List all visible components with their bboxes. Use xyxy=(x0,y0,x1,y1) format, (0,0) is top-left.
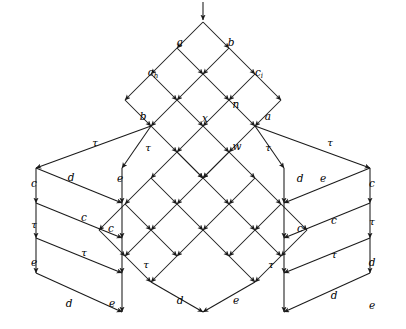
top-lattice-edge xyxy=(229,74,255,100)
edge-label-tau-near-left: τ xyxy=(145,143,151,153)
top-lattice-edge xyxy=(203,48,229,74)
center-lattice-edge xyxy=(229,256,255,282)
edge-label-C-right-c: c xyxy=(297,223,303,234)
edge-label-L-right-d: d xyxy=(68,172,75,183)
edge-label-L-right-tau: τ xyxy=(81,248,87,258)
edge-label-c-i: ci xyxy=(255,67,263,78)
top-lattice-edge xyxy=(151,126,177,152)
top-lattice-edge xyxy=(151,100,177,126)
edge-label-a-right: a xyxy=(265,111,271,122)
edge-label-L-left-tau: τ xyxy=(31,220,37,230)
center-lattice-edge xyxy=(151,152,177,178)
edge-label-R-left-c: c xyxy=(331,215,337,226)
center-lattice-edge xyxy=(229,178,255,204)
center-lattice-edge xyxy=(125,204,151,230)
center-lattice-edge xyxy=(203,204,229,230)
center-lattice-edge xyxy=(229,230,255,256)
tau-fanout-edge xyxy=(255,126,370,168)
left-ladder-diagonal xyxy=(36,168,122,203)
center-lattice-edge xyxy=(203,178,229,204)
center-lattice-edge xyxy=(255,204,281,230)
diagram-canvas xyxy=(0,0,406,329)
edge-label-L-left-c: c xyxy=(31,178,37,189)
edge-label-n-mid: n xyxy=(233,99,240,110)
edge-label-L-left-e: e xyxy=(31,257,37,268)
edge-label-tau-far-left: τ xyxy=(92,138,98,148)
right-ladder-bottom-diagonal xyxy=(284,273,370,312)
edge-label-c-h: ch xyxy=(148,67,159,78)
edge-label-C-left-tau: τ xyxy=(143,260,149,270)
center-lattice-edge xyxy=(125,178,151,204)
edge-label-R-right-c: c xyxy=(369,178,375,189)
edge-label-L-bot-d: d xyxy=(66,298,73,309)
top-lattice-edge xyxy=(255,74,281,100)
center-lattice-edge xyxy=(229,152,255,178)
top-lattice-edge xyxy=(177,100,203,126)
edge-label-L-bot-e: e xyxy=(109,298,115,309)
edge-label-R-right-tau: τ xyxy=(369,217,375,227)
top-lattice-edge xyxy=(203,126,229,152)
top-lattice-edge xyxy=(177,48,203,74)
edge-label-C-left-e: e xyxy=(117,173,123,184)
center-lattice-edge xyxy=(203,230,229,256)
edge-label-C-right-d: d xyxy=(297,173,304,184)
center-lattice-edge xyxy=(151,256,177,282)
left-ladder-diagonal xyxy=(36,238,122,273)
center-lattice-edge xyxy=(177,178,203,204)
edge-label-b-left: b xyxy=(140,111,147,122)
center-lattice-edge xyxy=(177,204,203,230)
edge-label-subscript: h xyxy=(154,71,159,80)
edge-label-R-left-tau: τ xyxy=(331,250,337,260)
center-lattice-edge xyxy=(125,230,151,256)
edge-label-C-right-tau: τ xyxy=(268,260,274,270)
center-lattice-edge xyxy=(177,152,203,178)
edge-label-tau-far-right: τ xyxy=(327,138,333,148)
top-lattice-edge xyxy=(125,100,151,126)
edge-label-C-left-c: c xyxy=(108,223,114,234)
center-lattice-edge xyxy=(281,204,307,230)
top-lattice-edge xyxy=(177,74,203,100)
center-lattice-edge xyxy=(151,204,177,230)
edge-label-x-center: x xyxy=(202,113,208,124)
center-lattice-edge xyxy=(203,152,229,178)
top-lattice-edge xyxy=(203,74,229,100)
center-lattice-edge xyxy=(151,230,177,256)
center-lattice-edge xyxy=(177,230,203,256)
center-lattice-edge xyxy=(229,204,255,230)
top-lattice-edge xyxy=(203,22,229,48)
edge-label-tau-near-right: τ xyxy=(265,143,271,153)
edge-label-C-bot-e: e xyxy=(233,295,239,306)
edge-label-subscript: i xyxy=(261,71,263,80)
edge-label-R-left-d: d xyxy=(331,290,338,301)
edge-label-L-right-c: c xyxy=(81,212,87,223)
center-lattice-edge xyxy=(255,178,281,204)
edge-label-R-bot-e: e xyxy=(369,300,375,311)
edge-label-a-top: a xyxy=(177,37,183,48)
center-lattice-edge xyxy=(255,230,281,256)
edge-label-w-center: w xyxy=(233,141,242,152)
edge-label-R-right-d: d xyxy=(369,257,376,268)
diagram-root: abchcinbaxwττττcτedcτdeecτdcτdeecτdcτde xyxy=(0,0,406,329)
center-lattice-edge xyxy=(151,178,177,204)
right-ladder-diagonal xyxy=(284,238,370,273)
edge-label-b-top: b xyxy=(228,37,235,48)
top-lattice-edge xyxy=(229,48,255,74)
edge-label-C-bot-d: d xyxy=(177,295,184,306)
top-lattice-edge xyxy=(125,74,151,100)
edge-label-R-left-e: e xyxy=(320,173,326,184)
center-lattice-edge xyxy=(203,282,255,312)
edge-layer xyxy=(36,2,370,312)
top-lattice-edge xyxy=(177,126,203,152)
